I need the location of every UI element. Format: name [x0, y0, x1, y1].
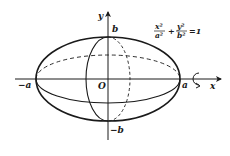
- neg-a-label: −a: [18, 80, 32, 90]
- a-label: a: [182, 80, 188, 90]
- y-axis-label: y: [97, 11, 104, 21]
- rotation-arrow-icon: [193, 73, 200, 88]
- ellipse-equation: x² a² + y² b² =1: [154, 22, 201, 40]
- b-top-label: b: [112, 24, 118, 34]
- x-axis-label: x: [209, 81, 216, 91]
- eq-plus: +: [168, 26, 175, 36]
- eq-y2: y²: [176, 22, 185, 31]
- eq-b2: b²: [177, 31, 186, 40]
- neg-b-label: −b: [110, 125, 124, 135]
- eq-a2: a²: [155, 31, 164, 40]
- eq-rhs: =1: [189, 26, 201, 36]
- eq-x2: x²: [154, 22, 163, 31]
- ellipsoid-diagram: y b O −a a x −b x² a² + y² b² =1: [0, 0, 230, 156]
- origin-label: O: [98, 81, 106, 91]
